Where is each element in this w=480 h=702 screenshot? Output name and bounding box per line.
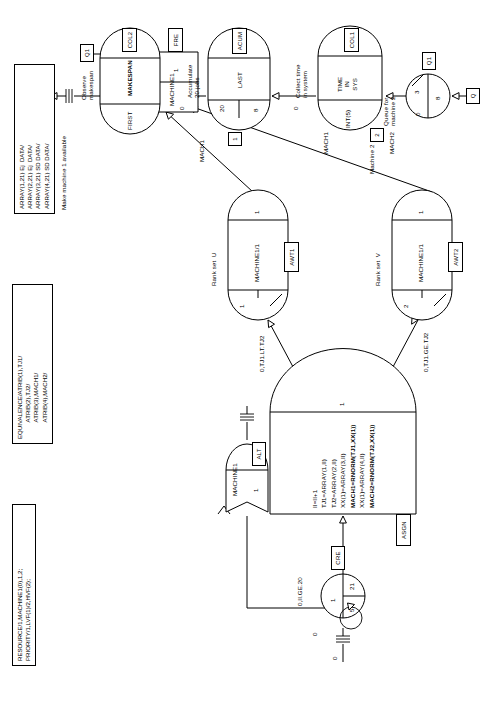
assign-stmt-3: XX(1)=ARRAY(3,II) bbox=[339, 416, 346, 508]
activity-mach1-upper-label: MACH1 bbox=[198, 140, 205, 162]
colct-node-label: COL1 bbox=[344, 28, 359, 52]
create-branch-condition: 0,II.GE.20 bbox=[296, 577, 303, 606]
alter-node-label: ALT bbox=[252, 442, 266, 466]
alter-capacity: 1 bbox=[252, 488, 259, 492]
rank-set-v-comment: Rank set V bbox=[374, 253, 381, 286]
colct-stat-label: TIME IN SYS bbox=[336, 77, 358, 92]
colct-stat-type: INT(5) bbox=[344, 110, 351, 128]
make-machine-available-comment: Make machine 1 available bbox=[60, 136, 67, 210]
colct2-stat-label: MAKESPAN bbox=[126, 60, 133, 96]
assign-stmt-6: MACH2=RNORM(TJ2,XX(1)) bbox=[368, 416, 375, 508]
resource-block: RESOURCE/1,MACHINE1(0),1,2; PRIORITY/1,L… bbox=[12, 504, 36, 666]
colct2-node-label: COL2 bbox=[122, 28, 137, 52]
array-block: ARRAY(1,21) Ej DATA/ ARRAY(2,21) Ej DATA… bbox=[14, 64, 55, 214]
assign-stmt-1: TJ1=ARRAY(1,II) bbox=[320, 416, 327, 508]
machine2-comment: Machine 2 bbox=[368, 145, 375, 174]
equivalence-block: EQUIVALENCE/ATRIB(1),TJ1/ ATRIB(2),TJ2/ … bbox=[12, 284, 53, 444]
assign-node-label: ASGN bbox=[396, 514, 411, 546]
await2-resource: MACHINE1/1 bbox=[417, 244, 424, 282]
create-time-between: 1 bbox=[329, 598, 336, 602]
assign-stmt-0: II=II+1 bbox=[311, 416, 318, 508]
collect-time-comment: Collect time in system bbox=[294, 64, 309, 98]
queue-machine2-comment: Queue for machine 2 bbox=[382, 97, 397, 126]
await1-node-label: AWT1 bbox=[284, 242, 299, 272]
activity-mach1-lower-label: MACH1 bbox=[322, 132, 329, 154]
accum-save-criterion: LAST bbox=[236, 72, 243, 88]
accum-subsequent-release: 8 bbox=[252, 108, 259, 112]
create-mark-attr: 5 bbox=[348, 608, 355, 612]
assign-branches: 1 bbox=[338, 402, 345, 406]
diagram-page: RESOURCE/1,MACHINE1(0),1,2; PRIORITY/1,L… bbox=[0, 0, 480, 702]
await2-node-label: AWT2 bbox=[448, 242, 463, 272]
activity-mach2-tag: 2 bbox=[370, 128, 384, 142]
free-out-q1-tag: Q1 bbox=[80, 44, 94, 62]
diagram-canvas: RESOURCE/1,MACHINE1(0),1,2; PRIORITY/1,L… bbox=[0, 0, 480, 702]
free-node-label: FRE bbox=[168, 28, 183, 52]
free-units: 1 bbox=[172, 68, 179, 72]
activity-zero-colct: 0 bbox=[292, 106, 299, 110]
create-max-branches: 21 bbox=[348, 583, 355, 590]
await1-branches: 1 bbox=[253, 210, 260, 214]
free-resource: MACHINE1 bbox=[168, 73, 175, 106]
create-node-label: CRE bbox=[331, 546, 345, 570]
alter-resource: MACHINE1 bbox=[231, 463, 238, 496]
await1-branch-condition: 0,TJ1.LT.TJ2 bbox=[258, 335, 265, 372]
queue-gate-tag: Q bbox=[466, 88, 480, 104]
queue-node-label: Q1 bbox=[422, 52, 436, 70]
queue-initial: 0 bbox=[414, 112, 421, 116]
await1-priority: 1 bbox=[238, 304, 245, 308]
assign-statements: II=II+1 TJ1=ARRAY(1,II) TJ2=ARRAY(2,II) … bbox=[274, 416, 412, 508]
await2-branches: 1 bbox=[417, 210, 424, 214]
colct2-stat-type: FIRST bbox=[126, 112, 133, 130]
assign-stmt-2: TJ2=ARRAY(2,II) bbox=[330, 416, 337, 508]
accum-node-label: ACUM bbox=[232, 28, 247, 54]
activity-zero-accum: 0 bbox=[178, 106, 185, 110]
queue-capacity: 3 bbox=[413, 90, 420, 94]
create-first-time: 0 bbox=[311, 632, 318, 636]
rank-set-u-comment: Rank set U bbox=[210, 253, 217, 286]
assign-stmt-5: XX(1)=ARRAY(4,II) bbox=[358, 416, 365, 508]
queue-max: 8 bbox=[434, 96, 441, 100]
await2-branch-condition: 0,TJ1.GE.TJ2 bbox=[422, 333, 429, 372]
accum-first-release: 20 bbox=[218, 105, 225, 112]
accumulate-jobs-comment: Accumulate 20 jobs bbox=[186, 65, 201, 98]
activity-mach1-upper-tag: 1 bbox=[228, 132, 242, 146]
observe-makespan-comment: Observe makespan bbox=[80, 71, 95, 100]
activity-mach2-label: MACH2 bbox=[388, 132, 395, 154]
assign-stmt-4: MACH1=RNORM(TJ1,XX(1)) bbox=[349, 416, 356, 508]
await2-priority: 2 bbox=[402, 304, 409, 308]
await1-resource: MACHINE1/1 bbox=[253, 244, 260, 282]
create-offset: 0 bbox=[331, 656, 338, 660]
